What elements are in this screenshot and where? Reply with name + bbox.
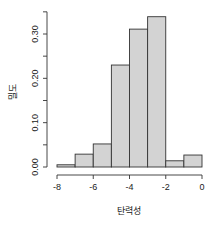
y-axis: 0.000.100.200.30 (30, 12, 47, 176)
histogram-bar (130, 29, 148, 167)
x-tick-label: -8 (53, 182, 61, 192)
y-tick-label: 0.10 (30, 114, 40, 132)
y-tick-label: 0.20 (30, 70, 40, 88)
histogram-bar (148, 17, 166, 167)
y-tick-label: 0.00 (30, 158, 40, 176)
x-tick-label: -2 (162, 182, 170, 192)
y-axis-label: 밀도 (7, 84, 18, 100)
histogram-bar (93, 144, 111, 167)
histogram-bar (75, 154, 93, 167)
histogram-bar (184, 155, 202, 167)
histogram-bars (57, 17, 202, 167)
histogram-chart: 0.000.100.200.30 -8-6-4-20 탄력성 밀도 (0, 0, 215, 225)
x-tick-label: -6 (89, 182, 97, 192)
histogram-bar (111, 65, 129, 167)
x-tick-label: -4 (125, 182, 133, 192)
histogram-bar (57, 165, 75, 167)
x-axis-label: 탄력성 (117, 205, 141, 216)
x-tick-label: 0 (199, 182, 204, 192)
histogram-bar (166, 161, 184, 167)
y-tick-label: 0.30 (30, 25, 40, 43)
x-axis: -8-6-4-20 (53, 175, 205, 192)
